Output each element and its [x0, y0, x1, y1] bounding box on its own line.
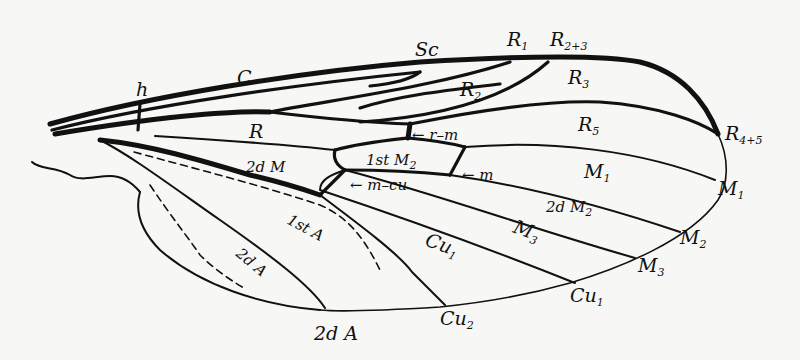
- label-r: R: [248, 120, 263, 142]
- label-c: C: [237, 66, 252, 88]
- label-2d-a-vein: 2d A: [313, 322, 358, 344]
- label-cu2-vein: Cu2: [440, 307, 474, 332]
- label-h: h: [136, 78, 148, 100]
- label-1st-m2: 1st M2: [366, 151, 416, 172]
- label-r-m: ← r–m: [412, 126, 458, 144]
- label-m2-vein: M2: [679, 226, 706, 251]
- label-m: ← m: [462, 166, 494, 184]
- label-r5: R5: [577, 113, 599, 138]
- label-r1: R1: [506, 28, 528, 53]
- wing-venation-diagram: h C Sc R1 R2+3 R3 R2 R ← r–m R5 R4+5 1st…: [0, 0, 800, 360]
- label-2d-a-cell: 2d A: [232, 244, 271, 281]
- label-cu1-vein: Cu1: [570, 284, 604, 309]
- label-cu1-cell: Cu1: [422, 228, 462, 263]
- label-1st-a: 1st A: [284, 211, 327, 245]
- label-m-cu: ← m–cu: [350, 176, 407, 194]
- label-r2-3: R2+3: [549, 28, 588, 53]
- label-2d-m: 2d M: [245, 158, 286, 176]
- label-m1-vein: M1: [717, 177, 744, 202]
- label-r2: R2: [459, 78, 481, 103]
- label-r3: R3: [567, 66, 589, 91]
- label-m3-vein: M3: [637, 254, 664, 279]
- label-2d-m2: 2d M2: [545, 198, 592, 219]
- label-m3-cell: M3: [509, 215, 543, 248]
- label-m1-cell: M1: [583, 160, 610, 185]
- label-sc: Sc: [415, 38, 439, 60]
- label-r4-5: R4+5: [724, 122, 763, 147]
